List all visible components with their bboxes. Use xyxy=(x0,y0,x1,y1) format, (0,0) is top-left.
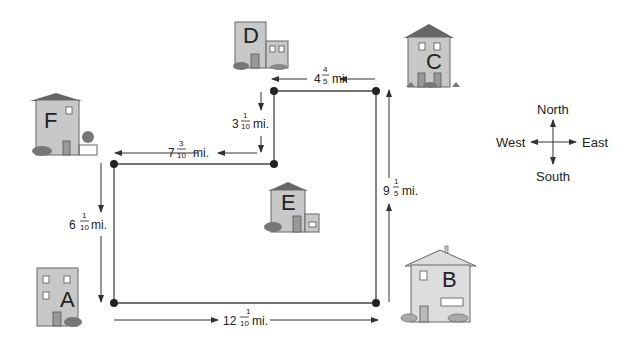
house-f: F xyxy=(30,93,97,156)
house-d: D xyxy=(233,22,288,70)
svg-text:1: 1 xyxy=(394,177,399,186)
svg-text:9: 9 xyxy=(383,184,390,198)
svg-text:mi.: mi. xyxy=(402,184,418,198)
svg-text:A: A xyxy=(60,287,75,312)
svg-text:3: 3 xyxy=(179,139,184,148)
compass: North South West East xyxy=(496,102,608,184)
svg-text:5: 5 xyxy=(323,77,328,86)
svg-text:10: 10 xyxy=(241,122,250,131)
svg-text:7: 7 xyxy=(168,146,175,160)
svg-text:mi.: mi. xyxy=(91,218,107,232)
svg-text:4: 4 xyxy=(323,65,328,74)
label-d-down: 3 1 10 mi. xyxy=(232,111,269,131)
svg-text:D: D xyxy=(243,23,259,48)
svg-text:10: 10 xyxy=(240,319,249,328)
compass-east: East xyxy=(582,135,608,150)
svg-text:1: 1 xyxy=(243,111,248,120)
house-e: E xyxy=(264,182,319,232)
svg-text:C: C xyxy=(426,49,442,74)
compass-west: West xyxy=(496,135,526,150)
svg-text:12: 12 xyxy=(223,314,237,328)
house-b: B xyxy=(401,246,476,322)
svg-text:10: 10 xyxy=(177,151,186,160)
svg-text:mi.: mi. xyxy=(252,314,268,328)
house-a: A xyxy=(37,268,82,327)
svg-text:4: 4 xyxy=(314,72,321,86)
svg-text:3: 3 xyxy=(232,117,239,131)
label-f-to-a: 6 1 10 mi. xyxy=(69,211,107,232)
svg-text:6: 6 xyxy=(69,218,76,232)
svg-text:E: E xyxy=(281,190,296,215)
svg-text:mi.: mi. xyxy=(253,117,269,131)
compass-north: North xyxy=(537,102,569,117)
label-f-to-e: 7 3 10 mi. xyxy=(168,139,209,160)
label-a-to-b: 12 1 10 mi. xyxy=(223,307,268,328)
svg-text:B: B xyxy=(442,267,457,292)
svg-text:F: F xyxy=(44,108,57,133)
svg-text:mi.: mi. xyxy=(332,72,348,86)
label-d-to-c: 4 4 5 mi. xyxy=(314,65,348,86)
svg-text:10: 10 xyxy=(80,223,89,232)
route-map: 4 4 5 mi. 3 1 10 mi. 7 3 10 mi. 6 1 10 m… xyxy=(0,0,638,349)
svg-text:5: 5 xyxy=(394,189,399,198)
svg-text:1: 1 xyxy=(246,307,251,316)
label-b-to-c: 9 1 5 mi. xyxy=(383,177,418,198)
svg-text:mi.: mi. xyxy=(193,146,209,160)
svg-text:1: 1 xyxy=(82,211,87,220)
compass-south: South xyxy=(536,169,570,184)
route-dots xyxy=(110,87,380,307)
house-c: C xyxy=(404,24,460,88)
